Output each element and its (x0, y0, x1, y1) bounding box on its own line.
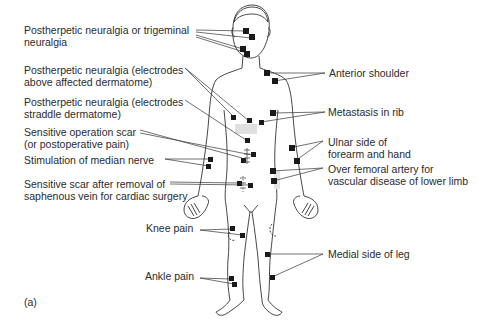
label-medial-side-leg: Medial side of leg (328, 248, 410, 260)
label-anterior-shoulder: Anterior shoulder (329, 67, 409, 79)
label-ulnar-forearm-hand: Ulnar side of forearm and hand (328, 136, 411, 160)
label-operation-scar: Sensitive operation scar (or postoperati… (24, 126, 136, 150)
label-median-nerve: Stimulation of median nerve (24, 154, 154, 166)
label-femoral-artery: Over femoral artery for vascular disease… (328, 163, 468, 187)
label-postherpetic-straddle-dermatome: Postherpetic neuralgia (electrodes strad… (24, 96, 183, 120)
panel-label: (a) (24, 296, 37, 308)
label-ankle-pain: Ankle pain (145, 270, 194, 282)
label-postherpetic-above-dermatome: Postherpetic neuralgia (electrodes above… (24, 64, 183, 88)
label-knee-pain: Knee pain (146, 222, 193, 234)
label-trigeminal-neuralgia: Postherpetic neuralgia or trigeminal neu… (24, 24, 189, 48)
label-metastasis-rib: Metastasis in rib (328, 106, 404, 118)
label-saphenous-scar: Sensitive scar after removal of saphenou… (24, 178, 187, 202)
electrode-pads (206, 28, 300, 287)
